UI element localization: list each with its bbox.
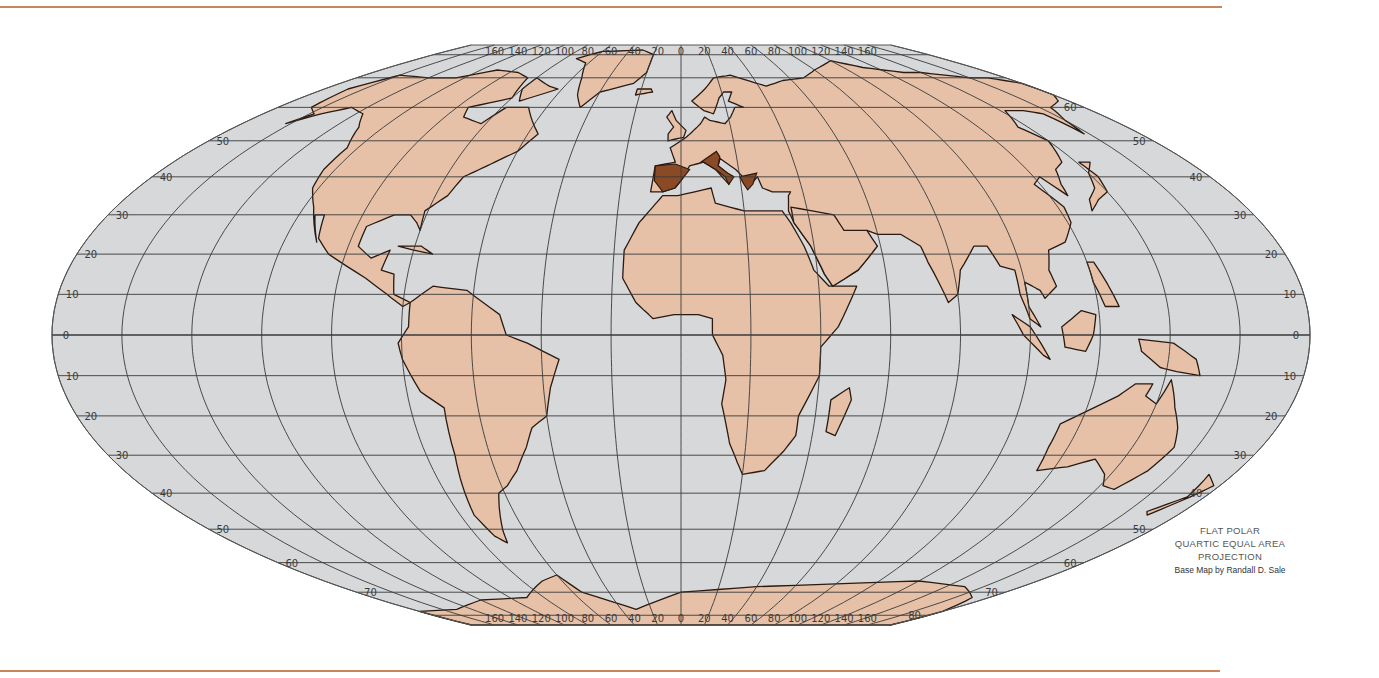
latitude-label-left: 50 — [216, 136, 229, 147]
longitude-label-top: 60 — [745, 46, 758, 57]
longitude-label-top: 20 — [698, 46, 711, 57]
longitude-label-top: 100 — [555, 46, 574, 57]
projection-caption: FLAT POLAR QUARTIC EQUAL AREA PROJECTION… — [1130, 524, 1330, 577]
longitude-label-bottom: 140 — [835, 613, 854, 624]
latitude-label-right: 50 — [1133, 136, 1146, 147]
longitude-label-top: 40 — [628, 46, 641, 57]
latitude-label-left: 40 — [160, 172, 173, 183]
longitude-label-top: 20 — [651, 46, 664, 57]
latitude-label-left: 10 — [66, 371, 79, 382]
map-credit: Base Map by Randall D. Sale — [1130, 563, 1330, 577]
latitude-label-right: 80 — [908, 610, 921, 621]
caption-line-1: FLAT POLAR — [1130, 524, 1330, 537]
longitude-label-bottom: 40 — [628, 613, 641, 624]
longitude-label-top: 140 — [835, 46, 854, 57]
longitude-label-bottom: 80 — [768, 613, 781, 624]
longitude-label-top: 80 — [581, 46, 594, 57]
longitude-label-bottom: 100 — [788, 613, 807, 624]
latitude-label-right: 30 — [1234, 210, 1247, 221]
latitude-label-left: 10 — [66, 289, 79, 300]
longitude-label-bottom: 100 — [555, 613, 574, 624]
longitude-label-bottom: 0 — [678, 613, 684, 624]
longitude-label-top: 100 — [788, 46, 807, 57]
caption-line-2: QUARTIC EQUAL AREA — [1130, 537, 1330, 550]
longitude-label-bottom: 160 — [485, 613, 504, 624]
latitude-label-left: 60 — [285, 558, 298, 569]
longitude-label-bottom: 140 — [508, 613, 527, 624]
longitude-label-bottom: 80 — [581, 613, 594, 624]
longitude-label-top: 80 — [768, 46, 781, 57]
longitude-label-top: 160 — [485, 46, 504, 57]
longitude-label-bottom: 120 — [532, 613, 551, 624]
latitude-label-right: 60 — [1064, 102, 1077, 113]
latitude-label-left: 0 — [63, 330, 69, 341]
longitude-label-top: 120 — [532, 46, 551, 57]
longitude-label-bottom: 60 — [745, 613, 758, 624]
latitude-label-right: 60 — [1064, 558, 1077, 569]
longitude-label-top: 0 — [678, 46, 684, 57]
longitude-label-top: 40 — [721, 46, 734, 57]
longitude-label-bottom: 60 — [605, 613, 618, 624]
latitude-label-right: 30 — [1234, 450, 1247, 461]
longitude-label-bottom: 120 — [811, 613, 830, 624]
latitude-label-right: 10 — [1283, 289, 1296, 300]
longitude-label-top: 60 — [605, 46, 618, 57]
latitude-label-right: 70 — [985, 587, 998, 598]
latitude-label-right: 20 — [1265, 411, 1278, 422]
longitude-label-bottom: 160 — [858, 613, 877, 624]
latitude-label-right: 20 — [1265, 249, 1278, 260]
latitude-label-right: 40 — [1190, 488, 1203, 499]
latitude-label-left: 40 — [160, 488, 173, 499]
latitude-label-left: 70 — [364, 587, 377, 598]
longitude-label-bottom: 40 — [721, 613, 734, 624]
longitude-label-top: 160 — [858, 46, 877, 57]
longitude-label-bottom: 20 — [651, 613, 664, 624]
longitude-label-top: 120 — [811, 46, 830, 57]
latitude-label-left: 50 — [216, 524, 229, 535]
latitude-label-left: 20 — [85, 411, 98, 422]
longitude-label-top: 140 — [508, 46, 527, 57]
caption-line-3: PROJECTION — [1130, 550, 1330, 563]
latitude-label-right: 40 — [1190, 172, 1203, 183]
latitude-label-right: 0 — [1293, 330, 1299, 341]
latitude-label-left: 30 — [116, 450, 129, 461]
latitude-label-right: 10 — [1283, 371, 1296, 382]
latitude-label-left: 30 — [116, 210, 129, 221]
longitude-label-bottom: 20 — [698, 613, 711, 624]
latitude-label-left: 20 — [85, 249, 98, 260]
